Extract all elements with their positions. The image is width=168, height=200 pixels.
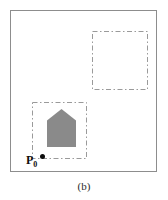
figure-caption: (b): [0, 180, 168, 192]
p0-label: P0: [26, 154, 37, 169]
p0-marker-dot: [40, 154, 45, 159]
dashed-region-top-right: [92, 31, 148, 90]
p0-label-subscript: 0: [33, 160, 37, 169]
figure-root: P0 (b): [0, 0, 168, 200]
house-shape: [47, 109, 76, 147]
house-polygon-icon: [47, 109, 76, 147]
dashed-rectangle-icon: [92, 31, 148, 90]
figure-panel-frame: P0: [10, 10, 157, 172]
